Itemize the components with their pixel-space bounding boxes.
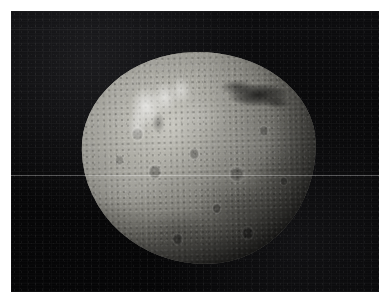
page-canvas: Grayscale spacecraft photograph of the a… — [0, 0, 392, 306]
asteroid-body — [79, 49, 318, 267]
terminator-shadow — [79, 49, 318, 267]
asteroid-photograph — [11, 11, 379, 292]
